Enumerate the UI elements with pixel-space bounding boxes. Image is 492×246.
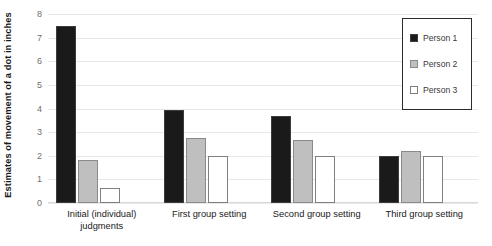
bar [164,110,184,203]
legend-swatch-icon [410,60,418,68]
bar [379,156,399,203]
y-axis-tick-label: 4 [37,104,42,114]
bar [401,151,421,203]
bar [56,26,76,203]
legend: Person 1Person 2Person 3 [402,18,472,110]
legend-item-label: Person 1 [423,33,457,43]
y-axis-tick-label: 3 [37,127,42,137]
bar [186,138,206,203]
legend-item[interactable]: Person 1 [410,33,471,43]
legend-item[interactable]: Person 2 [410,59,471,69]
y-axis-tick-label: 1 [37,174,42,184]
bar-chart: Estimates of movement of a dot in inches… [0,0,492,246]
y-axis-tick-label: 2 [37,151,42,161]
bar [100,188,120,203]
legend-swatch-icon [410,34,418,42]
y-axis-title-text: Estimates of movement of a dot in inches [3,12,13,197]
x-axis-label: Second group setting [263,206,371,246]
bar-group [156,14,264,203]
x-axis-label: First group setting [156,206,264,246]
y-axis-tick-label: 5 [37,80,42,90]
legend-item[interactable]: Person 3 [410,85,471,95]
bar [208,156,228,203]
y-axis-tick-label: 6 [37,56,42,66]
x-axis-labels: Initial (individual) judgmentsFirst grou… [48,206,478,246]
legend-swatch-icon [410,86,418,94]
y-axis-tick-label: 8 [37,9,42,19]
y-axis-tick-label: 7 [37,33,42,43]
bar [293,140,313,203]
legend-item-label: Person 3 [423,85,457,95]
gridline [48,203,478,204]
x-axis-label: Initial (individual) judgments [48,206,156,246]
bar-group [48,14,156,203]
y-axis-title: Estimates of movement of a dot in inches [0,0,16,210]
bar [315,156,335,203]
bar [271,116,291,203]
bar [78,160,98,203]
bar-group [263,14,371,203]
legend-item-label: Person 2 [423,59,457,69]
bar [423,156,443,203]
y-axis-tick-label: 0 [37,198,42,208]
x-axis-label: Third group setting [371,206,479,246]
